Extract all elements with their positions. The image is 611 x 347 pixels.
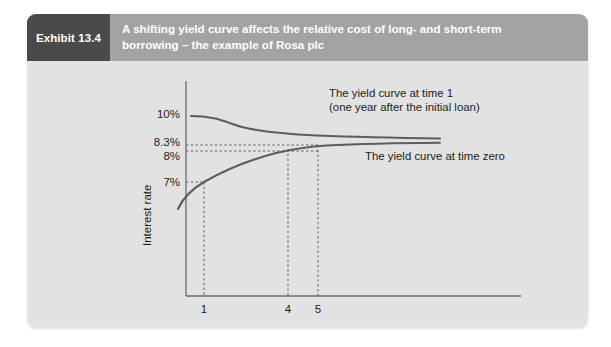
chart-plot-area: 10% 8.3% 8% 7% 1 4 5 Interest rate Years… <box>27 61 588 327</box>
x-tick-label-1: 1 <box>201 303 207 315</box>
y-axis-tick-labels: 10% 8.3% 8% 7% <box>154 108 180 188</box>
y-axis-title: Interest rate <box>141 185 153 246</box>
annotation-yield-curve-time-1: The yield curve at time 1 (one year afte… <box>329 87 480 113</box>
exhibit-header: Exhibit 13.4 A shifting yield curve affe… <box>27 14 588 61</box>
exhibit-title-line-1: A shifting yield curve affects the relat… <box>122 21 572 37</box>
y-tick-label-8: 8% <box>163 150 180 162</box>
curve-yield-time-1 <box>191 116 440 139</box>
exhibit-title: A shifting yield curve affects the relat… <box>122 21 572 53</box>
y-tick-label-8-3: 8.3% <box>154 136 180 148</box>
guide-lines <box>186 145 318 296</box>
exhibit-card: Exhibit 13.4 A shifting yield curve affe… <box>27 14 588 327</box>
y-tick-label-7: 7% <box>163 176 180 188</box>
x-tick-label-5: 5 <box>315 303 321 315</box>
x-axis-tick-labels: 1 4 5 <box>201 303 321 315</box>
annotation-time-1-line-2: (one year after the initial loan) <box>329 101 480 113</box>
annotation-time-1-line-1: The yield curve at time 1 <box>329 87 453 99</box>
exhibit-title-line-2: borrowing – the example of Rosa plc <box>122 37 572 53</box>
exhibit-number-block: Exhibit 13.4 <box>27 14 110 61</box>
yield-curve-chart: 10% 8.3% 8% 7% 1 4 5 Interest rate Years… <box>27 61 588 327</box>
exhibit-number-label: Exhibit 13.4 <box>36 32 101 44</box>
x-tick-label-4: 4 <box>285 303 292 315</box>
y-tick-label-10: 10% <box>157 108 180 120</box>
annotation-yield-curve-time-zero: The yield curve at time zero <box>365 150 505 162</box>
